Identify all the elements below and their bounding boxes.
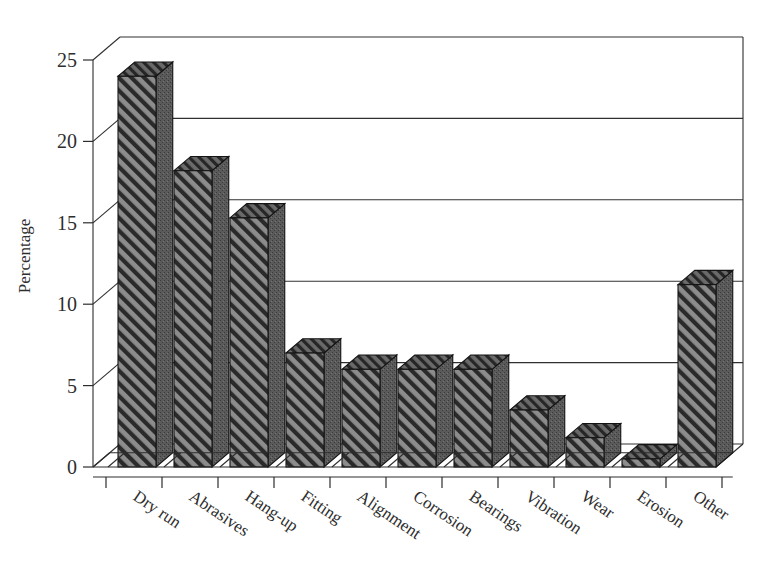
bar xyxy=(286,339,341,467)
bar-side-face xyxy=(716,270,733,467)
bar-front-face xyxy=(230,218,268,467)
bar xyxy=(118,62,173,467)
bar xyxy=(398,355,453,467)
bar-side-face xyxy=(436,355,453,467)
y-tick-label: 15 xyxy=(57,212,77,234)
y-tick-label: 25 xyxy=(57,49,77,71)
bar-front-face xyxy=(510,410,548,467)
bar xyxy=(678,270,733,467)
bar-front-face xyxy=(286,353,324,467)
chart-canvas: 0510152025 Dry runAbrasivesHang-upFittin… xyxy=(0,0,781,577)
bar-side-face xyxy=(212,156,229,467)
bar-side-face xyxy=(380,355,397,467)
bar xyxy=(510,396,565,467)
bar-side-face xyxy=(156,62,173,467)
bar-front-face xyxy=(678,285,716,467)
y-tick-label: 10 xyxy=(57,293,77,315)
bar xyxy=(230,204,285,467)
bar-chart: 0510152025 Dry runAbrasivesHang-upFittin… xyxy=(0,0,781,577)
y-tick-label: 20 xyxy=(57,130,77,152)
y-tick-label: 0 xyxy=(67,456,77,478)
y-axis-title: Percentage xyxy=(15,219,34,294)
bar-front-face xyxy=(622,459,660,467)
bar-front-face xyxy=(118,76,156,467)
chart-background xyxy=(0,0,781,577)
bar-side-face xyxy=(268,204,285,467)
y-tick-label: 5 xyxy=(67,375,77,397)
bar xyxy=(454,355,509,467)
bar-side-face xyxy=(492,355,509,467)
bar-side-face xyxy=(324,339,341,467)
bar-front-face xyxy=(174,171,212,467)
bar xyxy=(174,156,229,467)
bar xyxy=(342,355,397,467)
